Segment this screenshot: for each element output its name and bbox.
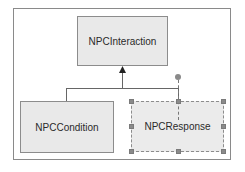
rotate-handle[interactable] <box>175 74 181 80</box>
class-box-npccondition[interactable]: NPCCondition <box>20 101 114 153</box>
resize-handle-n[interactable] <box>176 99 181 104</box>
resize-handle-se[interactable] <box>221 149 226 154</box>
class-label: NPCInteraction <box>89 36 157 47</box>
resize-handle-w[interactable] <box>129 124 134 129</box>
resize-handle-e[interactable] <box>221 124 226 129</box>
resize-handle-ne[interactable] <box>221 99 226 104</box>
class-label: NPCCondition <box>35 122 98 133</box>
resize-handle-s[interactable] <box>176 149 181 154</box>
resize-handle-nw[interactable] <box>129 99 134 104</box>
class-box-npcinteraction[interactable]: NPCInteraction <box>77 16 168 66</box>
class-label: NPCResponse <box>144 121 210 132</box>
resize-handle-sw[interactable] <box>129 149 134 154</box>
